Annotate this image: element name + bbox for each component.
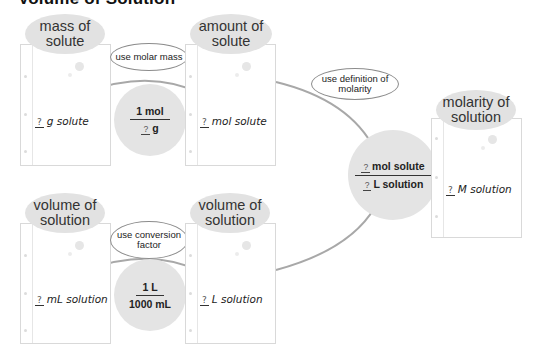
value-mass: ?g solute [35,115,108,128]
decor-dot [235,73,239,77]
binder-hole [189,254,192,257]
factor-denominator: 1000 mL [129,296,171,310]
label-molarity-of-solution: molarity of solution [436,90,516,130]
binder-hole [24,113,27,116]
binder-hole [24,292,27,295]
box-molarity-of-solution: ?M solution [431,118,522,238]
label-volume-l: volume of solution [190,193,270,233]
binder-hole [24,329,27,332]
margin-line [32,45,33,165]
margin-line [443,119,444,237]
binder-hole [24,150,27,153]
blank: ? [200,295,209,306]
decor-dot [68,73,72,77]
decor-dot [488,135,497,144]
decor-dot [242,62,251,71]
blank: ? [35,117,44,128]
box-volume-ml: ?mL solution [20,223,111,344]
binder-hole [24,254,27,257]
molarity-denominator: ?L solution [363,176,424,191]
binder-hole [189,150,192,153]
label-volume-ml: volume of solution [25,193,105,233]
margin-line [197,45,198,165]
binder-hole [24,75,27,78]
decor-dot [235,252,239,256]
box-mass-of-solute: ?g solute [20,44,111,166]
arrow-volume-to-molarity [276,207,375,270]
binder-hole [189,75,192,78]
decor-dot [75,62,84,71]
binder-hole [435,215,438,218]
factor-numerator: 1 mol [130,105,169,120]
decor-dot [242,241,251,250]
value-volume-ml: ?mL solution [35,293,108,306]
value-molarity: ?M solution [446,183,519,196]
binder-hole [435,176,438,179]
margin-line [32,224,33,343]
binder-hole [189,113,192,116]
margin-line [197,224,198,343]
blank: ? [446,185,455,196]
decor-dot [75,241,84,250]
blank: ? [200,117,209,128]
hint-use-molar-mass: use molar mass [110,43,188,71]
decor-dot [68,252,72,256]
blank: ? [35,295,44,306]
binder-hole [189,292,192,295]
factor-denominator: ?g [141,120,158,135]
box-volume-l: ?L solution [185,223,276,344]
label-amount-of-solute: amount of solute [190,14,272,54]
label-mass-of-solute: mass of solute [25,14,105,54]
hint-use-conversion-factor: use conversion factor [110,221,188,259]
value-volume-l: ?L solution [200,293,273,306]
binder-hole [435,137,438,140]
decor-dot [481,146,485,150]
binder-hole [189,329,192,332]
factor-molar-mass: 1 mol ?g [114,84,186,156]
factor-molarity: ?mol solute ?L solution [348,130,438,220]
value-amount: ?mol solute [200,115,273,128]
molarity-numerator: ?mol solute [355,160,430,176]
factor-numerator: 1 L [136,281,163,296]
factor-conversion: 1 L 1000 mL [114,259,186,331]
hint-use-definition-of-molarity: use definition of molarity [311,68,399,100]
box-amount-of-solute: ?mol solute [185,44,276,166]
